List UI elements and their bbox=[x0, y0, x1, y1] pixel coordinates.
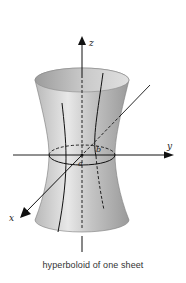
param-a-label: a bbox=[78, 159, 83, 168]
origin-point bbox=[81, 154, 84, 157]
z-axis-arrow-icon bbox=[78, 36, 86, 45]
z-axis-label: z bbox=[88, 38, 94, 48]
x-axis-label: x bbox=[9, 213, 14, 223]
figure-caption: hyperboloid of one sheet bbox=[0, 260, 186, 270]
y-axis-arrow-icon bbox=[164, 152, 174, 159]
hyperboloid-figure: z y x a b bbox=[0, 0, 186, 283]
param-b-label: b bbox=[96, 145, 101, 154]
y-axis-label: y bbox=[166, 141, 173, 151]
